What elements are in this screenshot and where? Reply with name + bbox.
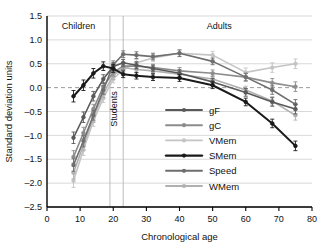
y-tick-label: 1.5 [29, 11, 42, 21]
x-tick-label: 70 [274, 214, 284, 224]
y-tick-label: –1.5 [24, 154, 42, 164]
legend-label-speed[interactable]: Speed [209, 165, 236, 176]
legend-marker [182, 138, 186, 142]
x-tick-label: 60 [241, 214, 251, 224]
data-point [270, 66, 274, 70]
region-annotation-children: Children [62, 21, 96, 31]
data-point [121, 72, 125, 76]
data-point [294, 62, 298, 66]
legend-label-wmem[interactable]: WMem [209, 181, 239, 192]
legend-label-gc[interactable]: gC [209, 120, 221, 131]
data-point [151, 55, 155, 59]
data-point [121, 61, 125, 65]
data-point [72, 94, 76, 98]
data-point [178, 51, 182, 55]
data-point [72, 136, 76, 140]
data-point [82, 139, 86, 143]
x-tick-label: 40 [174, 214, 184, 224]
data-point [270, 88, 274, 92]
data-point [151, 75, 155, 79]
data-point [91, 71, 95, 75]
x-tick-label: 80 [307, 214, 317, 224]
data-point [82, 115, 86, 119]
legend-marker [182, 169, 186, 173]
data-point [244, 91, 248, 95]
data-point [151, 67, 155, 71]
legend-marker [182, 184, 186, 188]
series-gc [72, 63, 298, 163]
series-line [74, 66, 296, 146]
data-point [294, 144, 298, 148]
series-group [72, 50, 298, 188]
x-tick-label: 30 [141, 214, 151, 224]
y-tick-label: –1.0 [24, 131, 42, 141]
data-point [72, 155, 76, 159]
y-tick-label: 0.0 [29, 83, 42, 93]
data-point [82, 83, 86, 87]
data-point [101, 77, 105, 81]
data-point [270, 81, 274, 85]
data-point [270, 122, 274, 126]
data-point [72, 179, 76, 183]
data-point [111, 67, 115, 71]
legend-label-vmem[interactable]: VMem [209, 135, 237, 146]
data-point [135, 63, 139, 67]
data-point [91, 113, 95, 117]
x-tick-label: 50 [208, 214, 218, 224]
data-point [211, 53, 215, 57]
legend-label-smem[interactable]: SMem [209, 150, 237, 161]
data-point [270, 100, 274, 104]
data-point [101, 88, 105, 92]
legend-marker [182, 108, 186, 112]
data-point [82, 131, 86, 135]
data-point [121, 52, 125, 56]
series-line [74, 53, 296, 180]
data-point [244, 100, 248, 104]
x-tick-label: 0 [44, 214, 49, 224]
x-axis-title: Chronological age [141, 231, 218, 242]
legend-label-gf[interactable]: gF [209, 105, 220, 116]
data-point [211, 83, 215, 87]
data-point [135, 53, 139, 57]
data-point [178, 76, 182, 80]
data-point [72, 163, 76, 167]
y-axis-title: Standard deviation units [3, 60, 14, 162]
x-tick-label: 10 [75, 214, 85, 224]
data-point [101, 64, 105, 68]
data-point [244, 75, 248, 79]
data-point [211, 71, 215, 75]
y-tick-label: –2.0 [24, 178, 42, 188]
legend: gFgCVMemSMemSpeedWMem [166, 105, 239, 192]
y-tick-label: 1.0 [29, 35, 42, 45]
chart-container: 1.51.00.50.0–0.5–1.0–1.5–2.0–2.501020304… [0, 0, 319, 250]
y-tick-label: –2.5 [24, 202, 42, 212]
legend-marker [182, 154, 186, 158]
y-tick-label: –0.5 [24, 107, 42, 117]
x-tick-label: 20 [108, 214, 118, 224]
legend-marker [182, 123, 186, 127]
lifespan-cognitive-abilities-chart: 1.51.00.50.0–0.5–1.0–1.5–2.0–2.501020304… [0, 0, 319, 250]
data-point [294, 85, 298, 89]
region-annotation-students: Students [109, 91, 119, 127]
data-point [294, 107, 298, 111]
region-annotation-adults: Adults [207, 21, 233, 31]
data-point [211, 59, 215, 63]
data-point [135, 74, 139, 78]
data-point [91, 94, 95, 98]
y-tick-label: 0.5 [29, 59, 42, 69]
